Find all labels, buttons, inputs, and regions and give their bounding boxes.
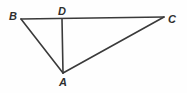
vertex-label-b: B <box>9 11 17 22</box>
vertex-label-d: D <box>58 6 66 17</box>
segment-ac <box>63 17 164 73</box>
segment-da <box>62 19 63 73</box>
segment-bc <box>21 17 164 19</box>
segment-group <box>21 17 164 73</box>
geometry-figure: B D C A <box>0 0 187 93</box>
vertex-label-c: C <box>168 14 176 25</box>
vertex-label-a: A <box>59 77 67 88</box>
segment-ba <box>21 19 63 73</box>
triangle-diagram-svg <box>0 0 187 93</box>
